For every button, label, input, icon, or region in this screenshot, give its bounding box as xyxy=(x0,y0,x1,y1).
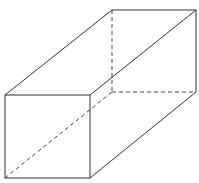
edge-top-right-depth xyxy=(90,10,196,95)
cuboid-diagram xyxy=(0,0,199,183)
front-face xyxy=(5,95,90,178)
cuboid-svg xyxy=(0,0,199,183)
edge-top-left-depth xyxy=(5,10,112,95)
edge-bottom-right-depth xyxy=(90,92,196,178)
hidden-edge-bottom-left-depth xyxy=(5,92,112,178)
